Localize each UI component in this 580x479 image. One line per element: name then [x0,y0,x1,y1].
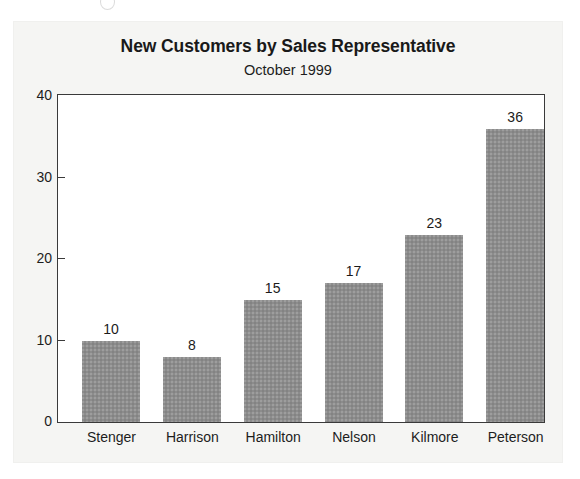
bar-value-label: 15 [244,280,302,296]
bar [244,300,302,422]
y-axis-tick-label: 40 [36,87,52,103]
plot-frame: 01020304010815172336 [57,94,545,423]
chart-subtitle: October 1999 [14,62,562,78]
x-axis-category-label: Harrison [153,429,231,445]
bar-value-label: 23 [405,215,463,231]
y-axis-tick-mark [58,258,65,259]
x-axis-category-label: Nelson [315,429,393,445]
y-axis-tick-mark [58,177,65,178]
y-axis-tick-label: 0 [44,413,52,429]
bar [163,357,221,422]
x-axis-category-label: Peterson [477,429,555,445]
bar-value-label: 10 [82,321,140,337]
x-axis-category-label: Stenger [73,429,151,445]
bar [82,341,140,423]
y-axis-tick-label: 10 [36,332,52,348]
x-axis-category-label: Kilmore [396,429,474,445]
bar-value-label: 8 [163,337,221,353]
x-axis-category-label: Hamilton [234,429,312,445]
y-axis-tick-label: 30 [36,169,52,185]
bar-value-label: 36 [486,109,544,125]
bar [486,129,544,422]
chart-title: New Customers by Sales Representative [14,36,562,57]
y-axis-tick-mark [58,340,65,341]
bar-value-label: 17 [325,263,383,279]
plot-area: 01020304010815172336 [58,95,544,422]
y-axis-tick-label: 20 [36,250,52,266]
bar [405,235,463,422]
figure-panel: New Customers by Sales Representative Oc… [14,22,562,462]
bar [325,283,383,422]
scan-artifact [100,0,115,10]
